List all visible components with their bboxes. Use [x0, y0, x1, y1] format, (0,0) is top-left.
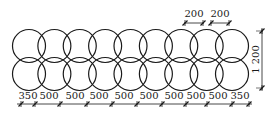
dimension-label: 500 — [139, 90, 158, 101]
dimension-label: 200 — [184, 8, 203, 19]
dimension-label: 500 — [208, 90, 227, 101]
bottom-dimension-chain: 350500500500500500500500500350 — [17, 90, 252, 107]
pile-layout-diagram: 350500500500500500500500500350 200200 1 … — [0, 0, 277, 113]
top-dimension-chain: 200200 — [183, 8, 232, 26]
dimension-label: 500 — [65, 90, 84, 101]
dimension-label: 500 — [114, 90, 133, 101]
dimension-label: 500 — [39, 90, 58, 101]
height-dimension-label: 1 200 — [250, 45, 261, 74]
dimension-label: 500 — [89, 90, 108, 101]
height-dimension: 1 200 — [250, 28, 265, 91]
pile-circles — [13, 30, 249, 91]
dimension-label: 350 — [18, 90, 37, 101]
dimension-label: 200 — [210, 8, 229, 19]
dimension-label: 500 — [164, 90, 183, 101]
dimension-label: 350 — [230, 90, 249, 101]
dimension-label: 500 — [186, 90, 205, 101]
